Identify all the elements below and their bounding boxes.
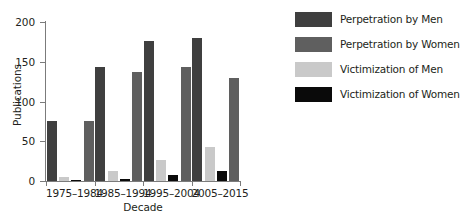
- bar: [192, 38, 202, 181]
- y-axis-title-label: Publications: [11, 64, 23, 126]
- y-tick-label: 100: [0, 97, 38, 107]
- y-tick-label-text: 100: [15, 97, 35, 107]
- y-tick-label: 200: [0, 17, 38, 27]
- legend-item[interactable]: Perpetration by Men: [295, 8, 437, 30]
- x-tick-mark: [192, 181, 193, 186]
- bar: [95, 67, 105, 181]
- bar: [229, 78, 239, 181]
- bar-group: [46, 22, 95, 181]
- y-tick-label-text: 0: [28, 176, 35, 186]
- swatch-black-icon: [295, 87, 332, 102]
- x-tick-label: 1985–1994: [95, 187, 144, 199]
- x-tick-label: 1975–1984: [46, 187, 95, 199]
- x-tick-label: 2005–2015: [192, 187, 241, 199]
- bar-group: [192, 22, 241, 181]
- x-tick-label: 1995–2004: [143, 187, 192, 199]
- y-tick-label: 0: [0, 176, 38, 186]
- swatch-light-gray-icon: [295, 62, 332, 77]
- bar: [84, 121, 94, 181]
- chart-legend: Perpetration by MenPerpetration by Women…: [295, 8, 437, 108]
- legend-item-label: Victimization of Women: [340, 88, 460, 100]
- legend-item-label: Perpetration by Men: [340, 13, 443, 25]
- x-tick-mark: [95, 181, 96, 186]
- legend-item[interactable]: Victimization of Men: [295, 58, 437, 80]
- bar: [108, 171, 118, 181]
- bar: [217, 171, 227, 181]
- x-tick-mark: [46, 181, 47, 186]
- y-tick-label-text: 50: [22, 136, 35, 146]
- bar: [181, 67, 191, 181]
- swatch-dark-gray-icon: [295, 12, 332, 27]
- bar: [132, 72, 142, 181]
- bar: [120, 179, 130, 181]
- y-tick-label-text: 150: [15, 57, 35, 67]
- plot-area: [46, 22, 240, 181]
- bar: [168, 175, 178, 181]
- bar: [71, 180, 81, 181]
- x-axis-title: Decade: [46, 201, 240, 213]
- bar: [205, 147, 215, 181]
- x-tick-mark: [143, 181, 144, 186]
- bar: [144, 41, 154, 181]
- bar-group: [95, 22, 144, 181]
- y-tick-label: 50: [0, 136, 38, 146]
- bar-group: [143, 22, 192, 181]
- y-tick-label-text: 200: [15, 17, 35, 27]
- y-tick-label: 150: [0, 57, 38, 67]
- legend-item-label: Victimization of Men: [340, 63, 443, 75]
- legend-item-label: Perpetration by Women: [340, 38, 460, 50]
- bar: [156, 160, 166, 181]
- legend-item[interactable]: Victimization of Women: [295, 83, 437, 105]
- legend-item[interactable]: Perpetration by Women: [295, 33, 437, 55]
- swatch-medium-gray-icon: [295, 37, 332, 52]
- bar: [47, 121, 57, 181]
- bar: [59, 177, 69, 181]
- x-tick-mark: [240, 181, 241, 186]
